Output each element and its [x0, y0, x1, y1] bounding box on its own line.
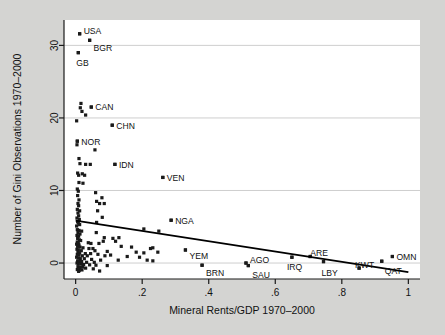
- point-label-are: ARE: [310, 248, 328, 258]
- data-point: [95, 200, 98, 203]
- data-point: [89, 163, 92, 166]
- data-point: [96, 209, 99, 212]
- data-point: [90, 105, 93, 108]
- y-tick-label: 10: [50, 184, 61, 196]
- data-point: [87, 247, 90, 250]
- data-point: [90, 258, 93, 261]
- scatter-plot-card: USABGRGBCANCHNNORIDNVENNGAYEMBRNAGOSAUIR…: [8, 9, 437, 326]
- data-point: [79, 102, 82, 105]
- data-point: [77, 270, 80, 273]
- data-point: [77, 190, 80, 193]
- data-point: [156, 251, 159, 254]
- plot-background: [64, 20, 420, 279]
- point-label-irq: IRQ: [287, 262, 303, 272]
- data-point: [78, 162, 81, 165]
- data-point: [117, 236, 120, 239]
- scatter-chart: USABGRGBCANCHNNORIDNVENNGAYEMBRNAGOSAUIR…: [8, 9, 437, 326]
- data-point: [80, 110, 83, 113]
- y-tick-label: 0: [50, 260, 61, 266]
- point-label-idn: IDN: [119, 160, 134, 170]
- data-point: [120, 245, 123, 248]
- point-label-kwt: KWT: [355, 260, 375, 270]
- point-label-nor: NOR: [81, 137, 100, 147]
- data-point: [94, 264, 97, 267]
- data-point: [93, 148, 96, 151]
- data-point: [111, 237, 114, 240]
- data-point: [106, 264, 109, 267]
- data-point: [101, 216, 104, 219]
- data-point: [117, 259, 120, 262]
- point-label-ago: AGO: [250, 255, 269, 265]
- data-point: [81, 265, 84, 268]
- y-axis-ticks: 0102030: [50, 39, 65, 265]
- data-point: [102, 240, 105, 243]
- data-point: [93, 261, 96, 264]
- point-label-can: CAN: [95, 102, 113, 112]
- y-tick-label: 30: [50, 39, 61, 51]
- point-label-gb: GB: [76, 58, 89, 68]
- x-tick-label: .6: [271, 287, 280, 298]
- data-point: [161, 176, 164, 179]
- data-point: [98, 202, 101, 205]
- figure-canvas: USABGRGBCANCHNNORIDNVENNGAYEMBRNAGOSAUIR…: [0, 0, 445, 335]
- data-point: [80, 230, 83, 233]
- data-point: [75, 224, 78, 227]
- data-point: [77, 181, 80, 184]
- point-label-ven: VEN: [167, 173, 185, 183]
- data-point: [89, 252, 92, 255]
- y-axis-title: Number of Gini Observations 1970–2000: [11, 53, 23, 244]
- data-point: [170, 219, 173, 222]
- point-label-omn: OMN: [396, 252, 416, 262]
- data-point: [151, 259, 154, 262]
- data-point: [79, 106, 82, 109]
- data-point: [138, 256, 141, 259]
- data-point: [75, 143, 78, 146]
- data-point: [391, 255, 394, 258]
- data-point: [81, 182, 84, 185]
- x-tick-label: .8: [338, 287, 347, 298]
- data-point: [83, 257, 86, 260]
- point-label-chn: CHN: [116, 121, 135, 131]
- data-point: [77, 51, 80, 54]
- x-tick-label: .4: [205, 287, 214, 298]
- data-point: [81, 254, 84, 257]
- data-point: [109, 253, 112, 256]
- data-point: [88, 39, 91, 42]
- data-point: [135, 251, 138, 254]
- data-point: [380, 260, 383, 263]
- y-tick-label: 20: [50, 112, 61, 124]
- point-label-nga: NGA: [175, 216, 194, 226]
- point-label-yem: YEM: [189, 251, 208, 261]
- data-point: [100, 196, 103, 199]
- data-point: [106, 250, 109, 253]
- data-point: [99, 259, 102, 262]
- data-point: [83, 174, 86, 177]
- data-point: [95, 231, 98, 234]
- data-point: [77, 198, 80, 201]
- data-point: [78, 32, 81, 35]
- data-point: [89, 242, 92, 245]
- data-point: [85, 261, 88, 264]
- data-point: [157, 230, 160, 233]
- data-point: [93, 249, 96, 252]
- data-point: [322, 260, 325, 263]
- point-label-lby: LBY: [322, 268, 339, 278]
- data-point: [81, 246, 84, 249]
- data-point: [86, 254, 89, 257]
- data-point: [88, 263, 91, 266]
- data-point: [142, 251, 145, 254]
- data-point: [75, 119, 78, 122]
- point-label-usa: USA: [84, 26, 102, 36]
- data-point: [146, 259, 149, 262]
- data-point: [84, 163, 87, 166]
- data-point: [94, 191, 97, 194]
- data-point: [142, 227, 145, 230]
- data-point: [200, 264, 203, 267]
- x-tick-label: .2: [138, 287, 147, 298]
- data-point: [76, 140, 79, 143]
- x-axis-title: Mineral Rents/GDP 1970–2000: [169, 304, 315, 316]
- data-point: [97, 242, 100, 245]
- data-point: [77, 174, 80, 177]
- data-point: [98, 269, 101, 272]
- data-point: [78, 223, 81, 226]
